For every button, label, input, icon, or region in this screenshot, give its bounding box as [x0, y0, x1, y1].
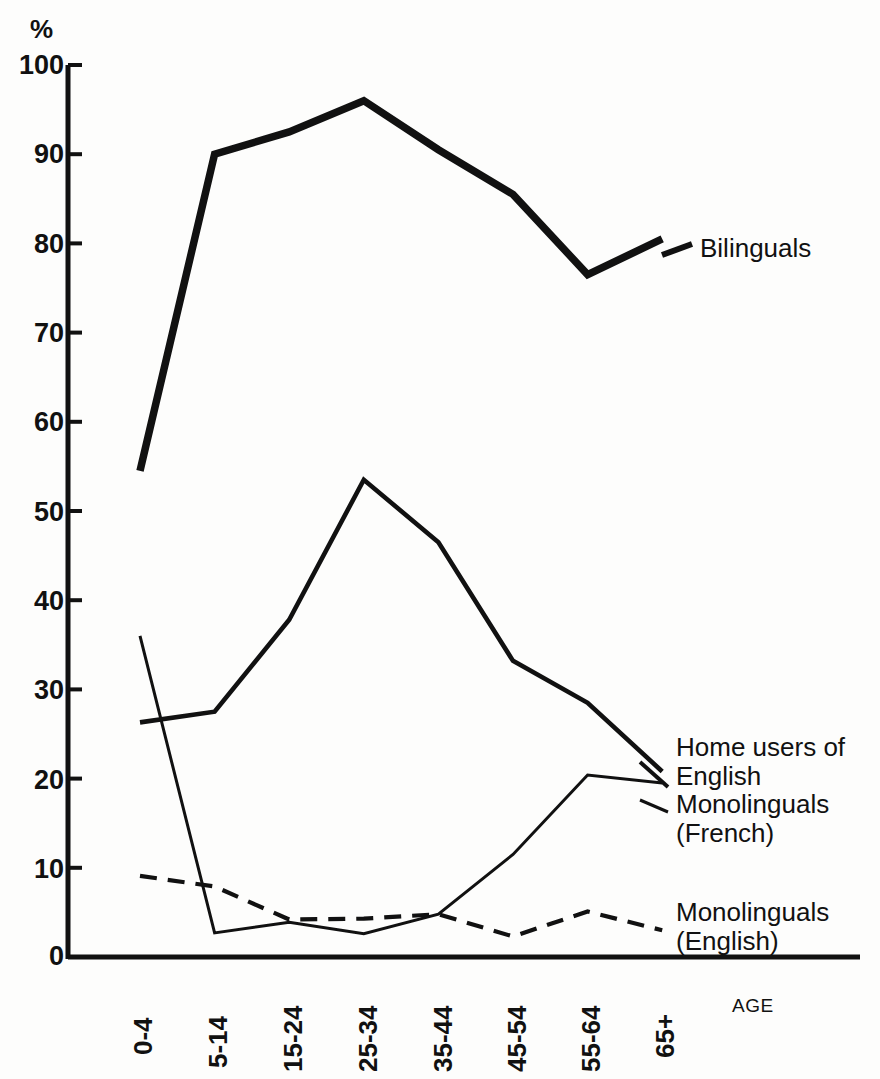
series-line-monolinguals-french [140, 636, 662, 934]
leader-line-monolinguals-french [640, 800, 668, 812]
leader-line-bilinguals [662, 244, 692, 255]
series-line-monolinguals-english [140, 876, 662, 937]
series-line-home-users-english [140, 480, 662, 772]
data-series [140, 101, 662, 937]
series-line-bilinguals [140, 101, 662, 471]
plot-area [0, 0, 880, 1079]
annotation-leaders [640, 244, 692, 812]
chart-figure: % 100 90 80 70 60 50 40 30 20 10 0 0-4 5… [0, 0, 880, 1079]
